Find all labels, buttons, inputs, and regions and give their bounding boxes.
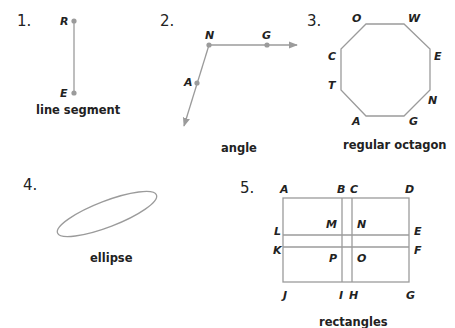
- vertex-o-label: O: [352, 12, 361, 25]
- vertex-e-label: E: [434, 50, 442, 63]
- point-p-label: P: [329, 252, 337, 265]
- caption-line-segment: line segment: [36, 103, 121, 117]
- vertex-g-label: G: [409, 115, 418, 128]
- point-e-label: E: [414, 225, 422, 238]
- figure-number-3: 3.: [307, 12, 321, 30]
- geometry-figures-canvas: 1. R E line segment 2. N G A angle 3. O …: [0, 0, 455, 328]
- point-e-dot: [71, 90, 76, 95]
- figure-number-5: 5.: [240, 179, 254, 197]
- point-k-label: K: [273, 244, 283, 257]
- figure-number-2: 2.: [160, 12, 174, 30]
- figure-1-line-segment: 1. R E line segment: [17, 12, 121, 117]
- point-n-dot: [206, 42, 211, 47]
- caption-angle: angle: [221, 141, 257, 155]
- point-l-label: L: [274, 225, 281, 238]
- figure-number-4: 4.: [23, 176, 37, 194]
- figure-number-1: 1.: [17, 12, 31, 30]
- point-r-label: R: [60, 15, 68, 28]
- outer-rectangle: [283, 198, 409, 282]
- point-f-label: F: [414, 244, 422, 257]
- point-a-dot: [194, 80, 199, 85]
- point-r-dot: [71, 18, 76, 23]
- vertex-t-label: T: [328, 79, 337, 92]
- caption-regular-octagon: regular octagon: [343, 138, 447, 152]
- point-m-label: M: [326, 218, 337, 231]
- caption-rectangles: rectangles: [319, 315, 388, 328]
- octagon-shape: [341, 24, 430, 116]
- figure-2-angle: 2. N G A angle: [160, 12, 297, 155]
- point-i-label: I: [339, 289, 343, 302]
- point-a-label: A: [279, 183, 289, 196]
- figure-4-ellipse: 4. ellipse: [23, 176, 161, 265]
- point-g-label: G: [406, 289, 415, 302]
- point-c-label: C: [350, 183, 358, 196]
- vertex-a-label: A: [351, 115, 361, 128]
- point-h-label: H: [349, 289, 358, 302]
- figure-5-rectangles: 5. A B C D L M N E K P O F J I H G recta…: [240, 179, 422, 328]
- point-b-label: B: [337, 183, 345, 196]
- point-o-label: O: [357, 252, 366, 265]
- point-g-dot: [264, 42, 269, 47]
- ellipse-shape: [53, 183, 161, 245]
- point-d-label: D: [405, 183, 414, 196]
- point-g-label: G: [262, 29, 271, 42]
- figure-3-regular-octagon: 3. O W E N G A T C regular octagon: [307, 12, 447, 152]
- point-j-label: J: [281, 289, 287, 302]
- point-a-label: A: [183, 76, 193, 89]
- vertex-c-label: C: [328, 50, 336, 63]
- point-n-label: N: [357, 218, 366, 231]
- vertex-n-label: N: [428, 94, 437, 107]
- vertex-w-label: W: [408, 12, 421, 25]
- point-e-label: E: [60, 87, 68, 100]
- caption-ellipse: ellipse: [90, 251, 133, 265]
- point-n-label: N: [205, 29, 214, 42]
